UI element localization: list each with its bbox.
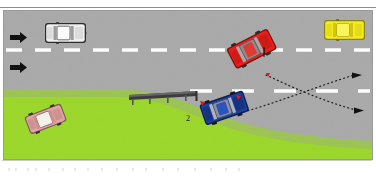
- top-rule-divider: [0, 7, 376, 8]
- collision-diagram: 1 2: [3, 10, 373, 160]
- vehicle-yellow-sedan: [324, 19, 365, 41]
- scan-artifact-row: [4, 168, 244, 173]
- vehicle-label-2: 2: [186, 115, 190, 123]
- vehicle-white-sedan: [45, 22, 87, 44]
- figure-scene: 1 2: [0, 0, 376, 179]
- vehicle-label-1: 1: [262, 48, 266, 56]
- bottom-rule-divider: [2, 160, 372, 161]
